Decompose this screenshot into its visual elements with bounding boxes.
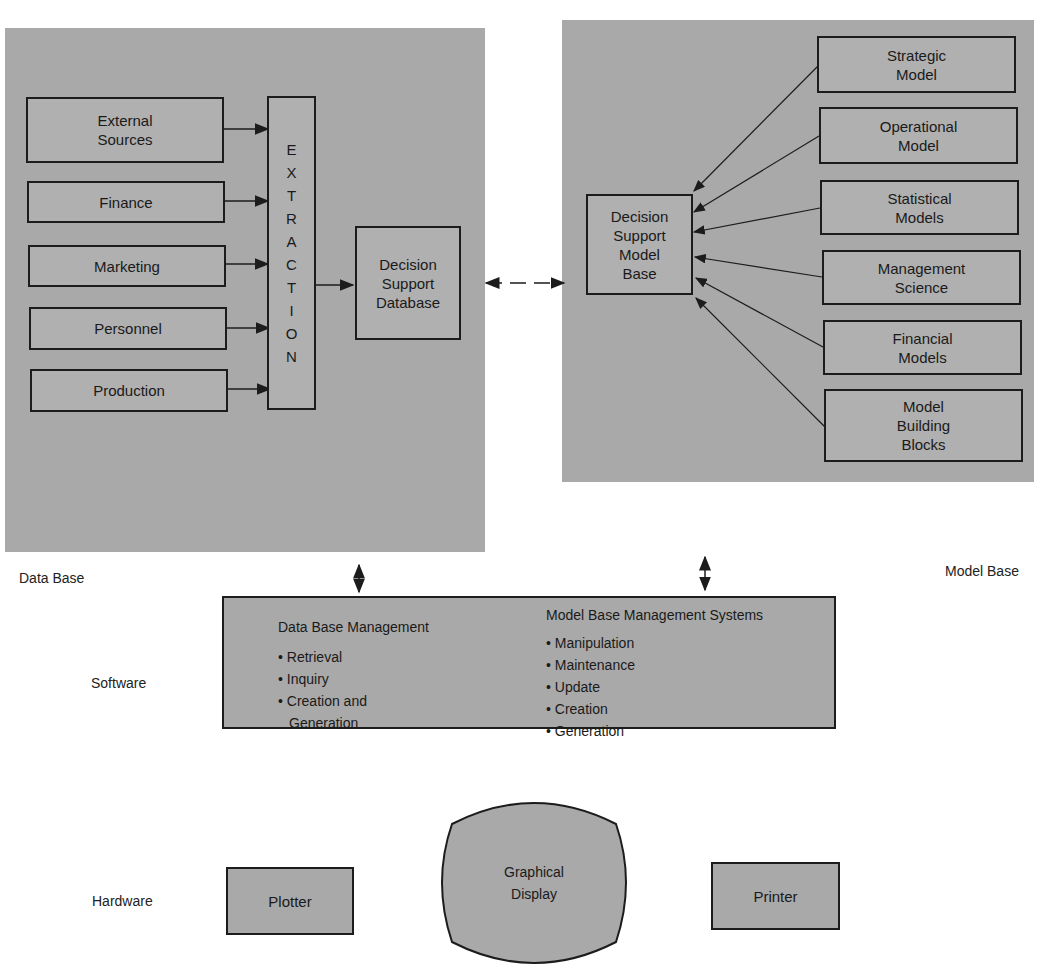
source-personnel: Personnel [29,307,227,350]
dbm-item: • Retrieval [278,646,429,668]
mbms-item: • Creation [546,698,763,720]
decision-support-model-base: Decision Support Model Base [586,194,693,295]
software-box: Data Base Management • Retrieval • Inqui… [222,596,836,729]
mbms-item: • Update [546,676,763,698]
source-label-line: Sources [97,130,152,149]
plotter-label: Plotter [268,892,311,911]
decision-support-database: Decision Support Database [355,226,461,340]
source-production: Production [30,369,228,412]
model-label-line: Model [896,65,937,84]
model-label-line: Financial [892,329,952,348]
extraction-letter: I [289,299,293,322]
printer-label: Printer [753,887,797,906]
plotter-box: Plotter [226,867,354,935]
extraction-bar: E X T R A C T I O N [267,96,316,410]
model-label-line: Blocks [901,435,945,454]
model-base-label-line: Model [619,245,660,264]
model-label-line: Models [898,348,946,367]
extraction-letter: N [286,345,297,368]
display-label-line: Display [511,883,557,905]
source-label: Marketing [94,257,160,276]
printer-box: Printer [711,862,840,930]
extraction-letter: X [286,161,296,184]
source-label: Production [93,381,165,400]
extraction-letter: T [287,276,296,299]
model-operational: Operational Model [819,107,1018,164]
hardware-label: Hardware [92,893,153,909]
dbm-heading: Data Base Management [278,616,429,638]
mbms-heading: Model Base Management Systems [546,604,763,626]
model-label-line: Management [878,259,966,278]
source-label: Personnel [94,319,162,338]
mbms-item: • Maintenance [546,654,763,676]
model-label-line: Building [897,416,950,435]
display-label-line: Graphical [504,861,564,883]
model-base-label-line: Support [613,226,666,245]
source-label: Finance [99,193,152,212]
database-label-line: Decision [379,255,437,274]
source-finance: Finance [27,181,225,223]
model-label-line: Model [903,397,944,416]
mbms-item: • Generation [546,720,763,742]
model-management-science: Management Science [822,250,1021,305]
database-label-line: Database [376,293,440,312]
model-financial: Financial Models [823,320,1022,375]
data-base-label: Data Base [19,570,84,586]
model-label-line: Operational [880,117,958,136]
model-building-blocks: Model Building Blocks [824,389,1023,462]
data-base-management: Data Base Management • Retrieval • Inqui… [278,616,429,734]
dbm-item: • Creation and [278,690,429,712]
model-strategic: Strategic Model [817,36,1016,93]
model-label-line: Models [895,208,943,227]
model-base-management-systems: Model Base Management Systems • Manipula… [546,604,763,742]
model-base-label-line: Decision [611,207,669,226]
source-label-line: External [97,111,152,130]
extraction-letter: E [286,138,296,161]
model-label-line: Statistical [887,189,951,208]
extraction-letter: T [287,184,296,207]
database-label-line: Support [382,274,435,293]
model-label-line: Science [895,278,948,297]
model-label-line: Strategic [887,46,946,65]
extraction-letter: R [286,207,297,230]
dbm-item: • Inquiry [278,668,429,690]
extraction-letter: O [286,322,298,345]
graphical-display: Graphical Display [440,800,628,965]
model-statistical: Statistical Models [820,180,1019,235]
model-base-label-line: Base [622,264,656,283]
source-marketing: Marketing [28,245,226,287]
mbms-item: • Manipulation [546,632,763,654]
dbm-item: Generation [278,712,429,734]
extraction-letter: A [286,230,296,253]
model-label-line: Model [898,136,939,155]
source-external-sources: External Sources [26,97,224,163]
software-label: Software [91,675,146,691]
model-base-label: Model Base [945,563,1019,579]
extraction-letter: C [286,253,297,276]
